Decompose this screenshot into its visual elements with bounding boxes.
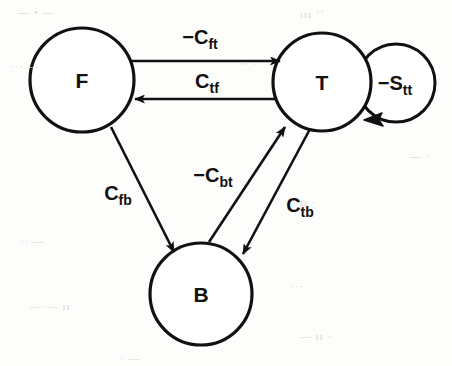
figure-canvas: F T B −Cft Ctf Cfb −Cbt	[0, 0, 452, 366]
node-T[interactable]: T	[273, 33, 371, 131]
edge-label-b-to-t: −Cbt	[193, 164, 233, 190]
edge-label-f-to-t: −Cft	[182, 26, 218, 52]
node-B[interactable]: B	[150, 243, 252, 345]
node-B-label: B	[193, 283, 208, 306]
edge-label-t-to-b: Ctb	[286, 194, 314, 220]
edge-label-t-to-f: Ctf	[195, 70, 219, 96]
edge-label-f-to-b: Cfb	[104, 182, 132, 208]
node-F-label: F	[76, 69, 89, 92]
node-F[interactable]: F	[30, 28, 134, 132]
edge-f-to-b-line[interactable]	[111, 127, 174, 252]
edge-t-to-b-line[interactable]	[243, 129, 310, 254]
graph-diagram: F T B −Cft Ctf Cfb −Cbt	[0, 0, 452, 366]
node-T-label: T	[316, 71, 329, 94]
